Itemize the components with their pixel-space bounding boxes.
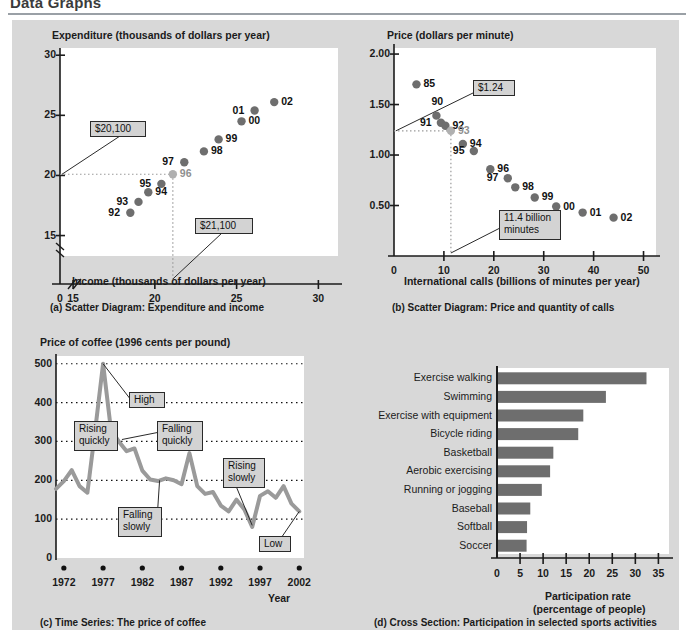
chart-a-point-label-01: 01: [233, 104, 245, 116]
chart-d-category-label-8: Softball: [347, 520, 492, 532]
chart-b-point-label-00: 00: [563, 200, 575, 212]
chart-d-caption: (d) Cross Section: Participation in sele…: [374, 617, 657, 628]
chart-a-ytick-20: 20: [34, 168, 56, 180]
chart-d-x-axis-title-line2: (percentage of people): [533, 603, 646, 615]
chart-a-ytick-30: 30: [34, 48, 56, 60]
chart-c-ytick-300: 300: [24, 434, 52, 446]
chart-a-point-label-97: 97: [162, 155, 174, 167]
chart-a-point-label-94: 94: [155, 185, 167, 197]
chart-c-callout-falling-slowly: Falling slowly: [118, 507, 162, 537]
chart-b-point-label-90: 90: [431, 95, 443, 107]
chart-b-point-label-85: 85: [423, 77, 435, 89]
chart-c-callout-rising-quickly: Rising quickly: [74, 421, 118, 451]
chart-a-xtick-25: 25: [228, 292, 246, 304]
chart-a-xtick-15: 15: [64, 292, 82, 304]
chart-a-point-label-95: 95: [139, 177, 151, 189]
chart-a-point-label-93: 93: [116, 195, 128, 207]
chart-b-ytick-0.50: 0.50: [360, 199, 390, 211]
chart-a-xtick-20: 20: [146, 292, 164, 304]
chart-a-point-label-02: 02: [281, 95, 293, 107]
chart-c-ytick-0: 0: [24, 551, 52, 563]
chart-c-ytick-500: 500: [24, 357, 52, 369]
chart-b-point-label-96: 96: [497, 162, 509, 174]
chart-d-category-label-5: Aerobic exercising: [347, 464, 492, 476]
chart-a-callout-expenditure: $20,100: [90, 121, 146, 137]
chart-a-point-label-99: 99: [226, 132, 238, 144]
chart-b-callout-price: $1.24: [473, 80, 515, 96]
chart-b-point-label-91: 91: [420, 116, 432, 128]
chart-a-ytick-15: 15: [34, 229, 56, 241]
chart-b-xtick-20: 20: [485, 264, 503, 276]
chart-b-point-label-98: 98: [522, 180, 534, 192]
chart-b-point-label-93: 93: [458, 124, 470, 136]
chart-d-category-label-0: Exercise walking: [347, 371, 492, 383]
chart-c-callout-high: High: [129, 392, 165, 408]
chart-d-category-label-4: Basketball: [347, 446, 492, 458]
chart-c-xtick-1987: 1987: [167, 576, 197, 588]
chart-d-xtick-30: 30: [625, 567, 645, 579]
chart-d-xtick-35: 35: [648, 567, 668, 579]
chart-a-ytick-25: 25: [34, 108, 56, 120]
chart-b-xtick-40: 40: [585, 264, 603, 276]
chart-b-callout-minutes: 11.4 billion minutes: [499, 210, 561, 240]
chart-a-point-label-92: 92: [108, 206, 120, 218]
chart-d-category-label-6: Running or jogging: [347, 483, 492, 495]
chart-a-point-label-00: 00: [249, 114, 261, 126]
chart-c-callout-falling-quickly: Falling quickly: [157, 421, 203, 451]
chart-b-xtick-0: 0: [385, 264, 403, 276]
chart-c-xtick-1997: 1997: [245, 576, 275, 588]
chart-d-category-label-1: Swimming: [347, 390, 492, 402]
chart-c-ytick-100: 100: [24, 512, 52, 524]
chart-a-point-label-96: 96: [180, 167, 192, 179]
chart-c-callout-low: Low: [259, 536, 291, 552]
chart-b-point-label-95: 95: [453, 144, 465, 156]
chart-d-xtick-15: 15: [556, 567, 576, 579]
chart-d-svg: [12, 20, 679, 630]
chart-d-category-label-3: Bicycle riding: [347, 427, 492, 439]
chart-d-x-axis-title-line1: Participation rate: [545, 590, 631, 602]
chart-b-xtick-30: 30: [535, 264, 553, 276]
chart-d-xtick-0: 0: [487, 567, 507, 579]
chart-d-xtick-20: 20: [579, 567, 599, 579]
chart-d-category-label-9: Soccer: [347, 539, 492, 551]
chart-d-xtick-25: 25: [602, 567, 622, 579]
chart-c-xtick-1977: 1977: [88, 576, 118, 588]
chart-a-xtick-30: 30: [309, 292, 327, 304]
chart-b-point-label-97: 97: [487, 171, 499, 183]
chart-b-xtick-10: 10: [435, 264, 453, 276]
figure-page: Data Graphs Expenditure (thousands of do…: [0, 0, 691, 634]
chart-b-point-label-01: 01: [590, 206, 602, 218]
figure-panel: Expenditure (thousands of dollars per ye…: [12, 20, 679, 630]
chart-d-xtick-5: 5: [510, 567, 530, 579]
chart-d-xtick-10: 10: [533, 567, 553, 579]
chart-c-xtick-1972: 1972: [49, 576, 79, 588]
chart-d-category-label-2: Exercise with equipment: [347, 409, 492, 421]
chart-c-ytick-200: 200: [24, 473, 52, 485]
chart-c-callout-rising-slowly: Rising slowly: [223, 458, 265, 488]
chart-a-point-label-98: 98: [211, 144, 223, 156]
title-rule: [8, 13, 686, 15]
chart-b-xtick-50: 50: [635, 264, 653, 276]
chart-c-xtick-1982: 1982: [127, 576, 157, 588]
chart-b-point-label-02: 02: [621, 211, 633, 223]
chart-c-ytick-400: 400: [24, 396, 52, 408]
chart-b-ytick-1.00: 1.00: [360, 148, 390, 160]
chart-b-ytick-1.50: 1.50: [360, 98, 390, 110]
page-title: Data Graphs: [10, 0, 101, 11]
chart-b-point-label-99: 99: [542, 190, 554, 202]
chart-d-category-label-7: Baseball: [347, 502, 492, 514]
chart-b-ytick-2.00: 2.00: [360, 47, 390, 59]
chart-a-callout-income: $21,100: [195, 218, 253, 234]
chart-c-xtick-1992: 1992: [206, 576, 236, 588]
chart-b-point-label-94: 94: [470, 137, 482, 149]
chart-c-xtick-2002: 2002: [284, 576, 314, 588]
